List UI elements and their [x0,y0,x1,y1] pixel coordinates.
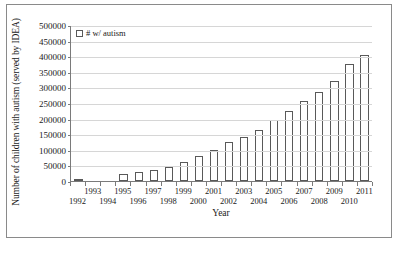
legend-label: # w/ autism [86,29,126,38]
x-tick-label: 1997 [145,187,162,196]
chart-figure: Number of children with autism (served b… [0,0,404,254]
x-tick-label: 2001 [205,187,222,196]
y-tick-label: 50000 [44,162,67,171]
y-tick-label: 150000 [39,131,66,140]
gridline [71,88,372,89]
bar [195,156,203,181]
y-tickmark [68,135,71,136]
y-tickmark [68,73,71,74]
x-tick-label: 1995 [114,187,131,196]
y-tickmark [68,26,71,27]
x-tick-label: 1996 [129,197,146,206]
bar [180,162,188,181]
x-tick-label: 2009 [326,187,343,196]
y-tickmark [68,88,71,89]
gridline [71,57,372,58]
y-tickmark [68,151,71,152]
y-tickmark [68,104,71,105]
x-tick-label: 1999 [175,187,192,196]
bar [135,172,143,181]
gridline [71,26,372,27]
x-tick-label: 2008 [311,197,328,206]
bar [255,130,263,181]
bar [285,111,293,181]
gridline [71,166,372,167]
y-tickmark [68,42,71,43]
y-tick-label: 500000 [39,22,66,31]
x-tick-label: 1992 [69,197,86,206]
x-tick-label: 1994 [99,197,116,206]
y-axis-tick-labels: 0500001000001500002000002500003000003500… [22,20,68,188]
x-tick-label: 2010 [341,197,358,206]
bar [300,101,308,181]
bar [150,170,158,181]
gridline [71,42,372,43]
x-tick-label: 2003 [235,187,252,196]
x-axis-title: Year [70,208,372,218]
gridline [71,151,372,152]
y-tick-label: 100000 [39,146,66,155]
x-tick-label: 2000 [190,197,207,206]
bar [74,179,82,181]
bar [315,92,323,181]
figure-caption [6,241,392,252]
x-tick-label: 2002 [220,197,237,206]
x-tick-label: 2004 [250,197,267,206]
y-tick-label: 250000 [39,100,66,109]
y-tick-label: 450000 [39,37,66,46]
x-tick-label: 2007 [296,187,313,196]
y-tick-label: 400000 [39,53,66,62]
bar [240,137,248,181]
bar [225,142,233,181]
bar [119,174,127,181]
bar [345,64,353,181]
plot-area [70,26,372,182]
y-tickmark [68,120,71,121]
gridline [71,135,372,136]
gridline [71,104,372,105]
x-axis-tick-labels: 1992199319941995199619971998199920002001… [70,186,372,210]
y-tick-label: 0 [62,178,67,187]
gridline [71,73,372,74]
x-tick-label: 1993 [84,187,101,196]
gridline [71,120,372,121]
chart-legend: # w/ autism [74,28,129,39]
y-tickmark [68,166,71,167]
y-tick-label: 200000 [39,115,66,124]
y-axis-title-text: Number of children with autism (served b… [11,18,21,206]
x-tick-label: 2006 [280,197,297,206]
x-tick-label: 2011 [356,187,373,196]
y-tick-label: 300000 [39,84,66,93]
open-square-swatch-icon [76,30,83,37]
bar [165,167,173,181]
x-tick-label: 1998 [160,197,177,206]
x-tick-label: 2005 [265,187,282,196]
y-tick-label: 350000 [39,68,66,77]
y-tickmark [68,57,71,58]
